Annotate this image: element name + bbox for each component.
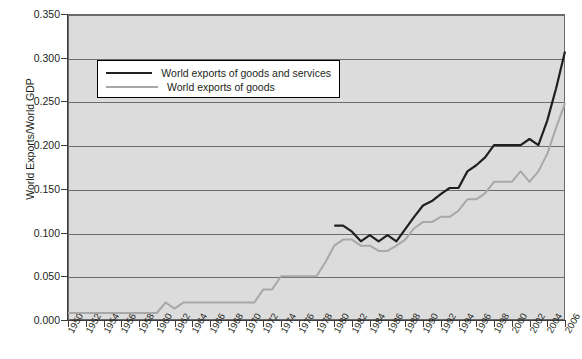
legend-entry-goods-and-services: World exports of goods and services xyxy=(106,66,331,80)
series-line xyxy=(334,52,565,242)
series-line xyxy=(68,103,565,313)
legend-entry-goods: World exports of goods xyxy=(106,80,331,94)
legend-label: World exports of goods and services xyxy=(161,67,331,79)
legend-label: World exports of goods xyxy=(167,81,275,93)
gray-line-swatch xyxy=(106,86,158,88)
legend: World exports of goods and services Worl… xyxy=(97,60,340,98)
dark-line-swatch xyxy=(106,72,152,74)
